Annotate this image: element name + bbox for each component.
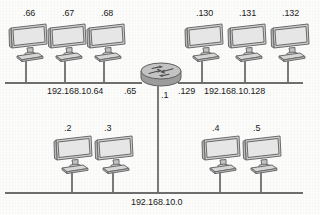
router-icon[interactable] (139, 58, 183, 88)
drop-wire-host-67 (64, 61, 66, 83)
network-label-192-168-10-0: 192.168.10.0 (131, 197, 182, 207)
drop-wire-host-130 (201, 61, 203, 83)
bus-line-segment-top-left (5, 82, 142, 84)
drop-wire-host-68 (103, 61, 105, 83)
drop-wire-host-2 (71, 172, 73, 193)
bus-line-segment-top-right (178, 82, 303, 84)
host-label-68: .68 (101, 8, 113, 18)
network-label-192-168-10-128: 192.168.10.128 (204, 86, 265, 96)
host-label-67: .67 (62, 8, 74, 18)
router-interface-label-65: .65 (124, 86, 136, 96)
computer-icon-host-131[interactable] (227, 20, 273, 66)
host-label-131: .131 (239, 8, 256, 18)
router-interface-label-1: .1 (161, 90, 168, 100)
router-trunk-wire (157, 85, 159, 192)
computer-icon-host-4[interactable] (201, 132, 247, 178)
computer-icon-host-2[interactable] (53, 132, 99, 178)
host-label-66: .66 (23, 8, 35, 18)
network-diagram-canvas: .66 .67 .68 (0, 0, 320, 215)
computer-icon-host-132[interactable] (270, 20, 316, 66)
computer-icon-host-68[interactable] (86, 20, 132, 66)
computer-icon-host-5[interactable] (242, 132, 288, 178)
drop-wire-host-132 (287, 61, 289, 83)
computer-icon-host-130[interactable] (184, 20, 230, 66)
computer-icon-host-3[interactable] (94, 132, 140, 178)
drop-wire-host-3 (112, 172, 114, 193)
drop-wire-host-5 (260, 172, 262, 193)
drop-wire-host-66 (25, 61, 27, 83)
bus-line-segment-bottom (5, 192, 303, 194)
drop-wire-host-131 (244, 61, 246, 83)
drop-wire-host-4 (219, 172, 221, 193)
host-label-130: .130 (196, 8, 213, 18)
network-label-192-168-10-64: 192.168.10.64 (47, 86, 103, 96)
host-label-132: .132 (282, 8, 299, 18)
